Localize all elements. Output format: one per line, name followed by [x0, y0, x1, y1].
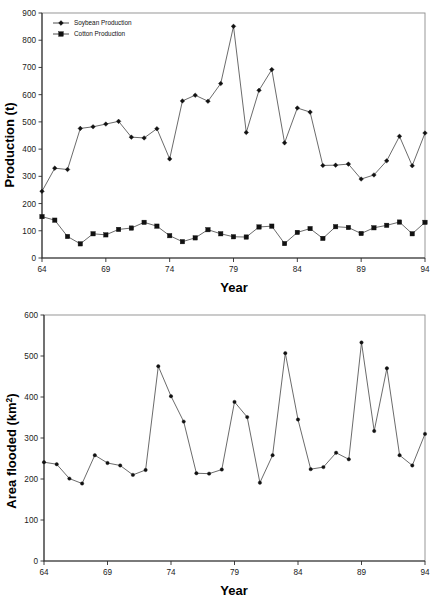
y-axis-ticks: 0100200300400500600700800900	[22, 9, 42, 263]
data-point-marker	[423, 131, 428, 136]
data-point-marker	[308, 226, 312, 230]
data-point-marker	[65, 167, 70, 172]
y-axis-ticks: 0100200300400500600	[24, 311, 44, 566]
x-tick-label: 74	[166, 568, 176, 577]
data-point-marker	[347, 458, 350, 461]
data-point-marker	[244, 130, 249, 135]
data-point-marker	[131, 473, 134, 476]
production-chart-figure: 0100200300400500600700800900 64697479848…	[0, 0, 437, 300]
data-series-group	[40, 24, 428, 246]
y-tick-label: 400	[24, 393, 38, 402]
data-point-marker	[282, 241, 286, 245]
legend: Soybean ProductionCotton Production	[53, 19, 132, 37]
data-point-marker	[423, 220, 427, 224]
data-point-marker	[119, 464, 122, 467]
x-tick-label: 74	[165, 265, 175, 274]
data-point-marker	[246, 415, 249, 418]
x-tick-label: 89	[357, 568, 367, 577]
area-flooded-chart-figure: 0100200300400500600 64697479848994 Area …	[0, 303, 437, 603]
area-flooded-chart-svg: 0100200300400500600 64697479848994 Area …	[0, 303, 437, 603]
data-point-marker	[78, 126, 83, 131]
x-tick-label: 64	[37, 265, 47, 274]
data-point-marker	[144, 468, 147, 471]
data-point-marker	[321, 163, 326, 168]
x-tick-label: 79	[229, 265, 239, 274]
data-point-marker	[333, 163, 338, 168]
y-axis-title: Area flooded (km2)	[4, 393, 19, 508]
data-point-marker	[295, 230, 299, 234]
data-point-marker	[333, 224, 337, 228]
x-axis-ticks: 64697479848994	[39, 561, 430, 577]
data-point-marker	[207, 472, 210, 475]
data-point-marker	[257, 225, 261, 229]
data-point-marker	[360, 341, 363, 344]
x-tick-label: 64	[39, 568, 49, 577]
data-point-marker	[334, 451, 337, 454]
data-point-marker	[411, 464, 414, 467]
y-tick-label: 800	[22, 36, 36, 45]
series-line-2	[42, 217, 425, 244]
data-point-marker	[231, 24, 236, 29]
data-point-marker	[53, 218, 57, 222]
y-tick-label: 0	[33, 557, 38, 566]
data-point-marker	[296, 418, 299, 421]
data-point-marker	[80, 482, 83, 485]
y-tick-label: 100	[24, 516, 38, 525]
x-tick-label: 69	[101, 265, 111, 274]
data-point-marker	[142, 220, 146, 224]
data-point-marker	[359, 231, 363, 235]
data-point-marker	[52, 166, 57, 171]
data-point-marker	[65, 234, 69, 238]
data-point-marker	[385, 223, 389, 227]
data-point-marker	[373, 429, 376, 432]
production-chart-svg: 0100200300400500600700800900 64697479848…	[0, 0, 437, 300]
data-point-marker	[220, 468, 223, 471]
data-point-marker	[129, 226, 133, 230]
data-point-marker	[195, 472, 198, 475]
data-point-marker	[397, 134, 402, 139]
data-point-marker	[104, 122, 109, 127]
data-point-marker	[346, 225, 350, 229]
data-series-group	[42, 341, 426, 485]
y-tick-label: 100	[22, 227, 36, 236]
data-point-marker	[270, 67, 275, 72]
y-axis-title-tail: )	[4, 393, 19, 397]
data-point-marker	[180, 99, 185, 104]
x-tick-label: 94	[420, 265, 430, 274]
data-point-marker	[309, 467, 312, 470]
data-point-marker	[295, 106, 300, 111]
y-tick-label: 700	[22, 63, 36, 72]
data-point-marker	[231, 235, 235, 239]
axis-lines	[44, 315, 425, 561]
data-point-marker	[410, 163, 415, 168]
data-point-marker	[167, 157, 172, 162]
data-point-marker	[397, 220, 401, 224]
y-tick-label: 400	[22, 145, 36, 154]
x-tick-label: 79	[230, 568, 240, 577]
data-point-marker	[423, 432, 426, 435]
series-line-1	[42, 26, 425, 191]
data-point-marker	[322, 465, 325, 468]
x-axis-ticks: 64697479848994	[37, 258, 430, 274]
x-tick-label: 89	[357, 265, 367, 274]
axis-lines	[42, 13, 425, 258]
data-point-marker	[321, 236, 325, 240]
data-point-marker	[193, 236, 197, 240]
y-tick-label: 900	[22, 9, 36, 18]
y-axis-title-base: Area flooded (km	[4, 402, 19, 508]
data-point-marker	[233, 400, 236, 403]
y-tick-label: 300	[24, 434, 38, 443]
legend-marker-2	[59, 32, 64, 37]
data-point-marker	[68, 477, 71, 480]
data-point-marker	[169, 394, 172, 397]
data-point-marker	[40, 189, 45, 194]
data-point-marker	[182, 420, 185, 423]
legend-marker-1	[59, 21, 64, 26]
data-point-marker	[284, 351, 287, 354]
y-tick-label: 500	[24, 352, 38, 361]
legend-label-1: Soybean Production	[74, 19, 132, 27]
data-point-marker	[410, 232, 414, 236]
data-point-marker	[116, 227, 120, 231]
data-point-marker	[91, 232, 95, 236]
x-tick-label: 94	[420, 568, 430, 577]
